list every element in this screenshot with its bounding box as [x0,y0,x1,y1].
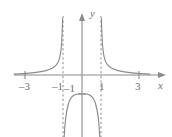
x-axis-label: x [158,80,163,91]
x-tick-label-neg1: –1 [52,81,63,92]
y-tick-label-neg1: –1 [64,83,75,94]
x-tick-label-pos1: 1 [99,81,105,92]
graph-canvas [0,0,172,137]
x-tick-label-neg3: –3 [19,81,30,92]
curve-right-branch [101,19,150,75]
x-tick-label-pos3: 3 [135,81,141,92]
curve-left-branch [14,19,63,75]
y-axis-label: y [90,8,95,19]
rational-function-figure: x y –3 –1 1 3 –1 [0,0,172,137]
x-axis [14,72,166,78]
